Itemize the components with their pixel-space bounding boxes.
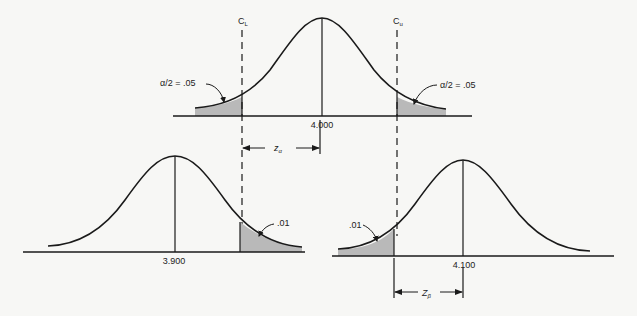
svg-text:Cu: Cu xyxy=(393,16,403,27)
bottom-right-tail-pointer xyxy=(363,225,377,241)
top-right-tail-shade xyxy=(397,97,446,116)
top-right-tail-label: α/2 = .05 xyxy=(440,80,475,90)
bottom-left-tail-label: .01 xyxy=(277,218,290,228)
z-alpha-dimension: zα xyxy=(243,120,320,154)
bottom-left-distribution: 3.900 .01 xyxy=(23,156,305,266)
bottom-left-mean-label: 3.900 xyxy=(163,256,186,266)
top-right-tail-pointer xyxy=(414,85,437,104)
top-left-tail-shade xyxy=(195,97,242,116)
top-distribution: 4.000 α/2 = .05 α/2 = .05 xyxy=(160,18,475,130)
bottom-right-distribution: 4.100 .01 xyxy=(332,160,614,270)
diagram-svg: 4.000 α/2 = .05 α/2 = .05 CL Cu zα xyxy=(0,0,637,316)
lower-critical-label: CL xyxy=(238,16,249,27)
bottom-right-tail-label: .01 xyxy=(349,220,362,230)
upper-critical-label: Cu xyxy=(393,16,403,27)
top-mean-label: 4.000 xyxy=(311,120,334,130)
bottom-right-mean-label: 4.100 xyxy=(453,260,476,270)
diagram-canvas: 4.000 α/2 = .05 α/2 = .05 CL Cu zα xyxy=(0,0,637,316)
svg-text:Zβ: Zβ xyxy=(421,288,432,299)
top-left-tail-label: α/2 = .05 xyxy=(160,78,195,88)
svg-text:zα: zα xyxy=(273,143,283,154)
top-bell-curve xyxy=(195,18,446,109)
svg-text:CL: CL xyxy=(238,16,249,27)
top-left-tail-pointer xyxy=(206,84,224,102)
